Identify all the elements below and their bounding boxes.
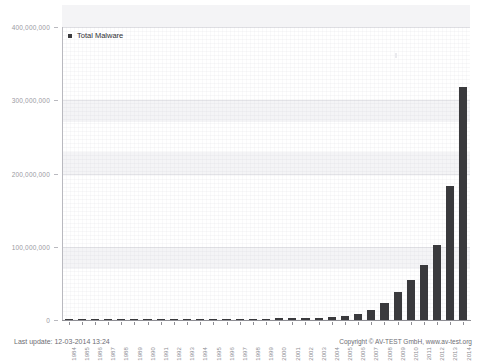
bar-2003 <box>315 318 323 320</box>
bar-1992 <box>170 319 178 320</box>
x-tick-2000 <box>279 322 280 325</box>
y-tick-label-0: 0 <box>46 317 50 324</box>
bar-1989 <box>130 319 138 320</box>
x-tick-2001 <box>292 322 293 325</box>
x-tick-2012 <box>437 322 438 325</box>
bar-1994 <box>196 319 204 320</box>
last-update-text: Last update: 12-03-2014 13:24 <box>14 338 110 345</box>
bar-1986 <box>91 319 99 320</box>
x-tick-2008 <box>384 322 385 325</box>
x-tick-2002 <box>305 322 306 325</box>
bar-2005 <box>341 316 349 320</box>
y-tick-label-400000000: 400,000,000 <box>12 24 50 31</box>
bar-1997 <box>236 319 244 320</box>
malware-bar-chart: 0100,000,000200,000,000300,000,000400,00… <box>0 13 484 335</box>
x-tick-2005 <box>345 322 346 325</box>
bar-2009 <box>394 292 402 320</box>
x-tick-1996 <box>227 322 228 325</box>
bar-2013 <box>446 186 454 320</box>
bar-1996 <box>222 319 230 320</box>
x-tick-2003 <box>319 322 320 325</box>
bar-2011 <box>420 265 428 320</box>
x-tick-1998 <box>253 322 254 325</box>
x-tick-1986 <box>95 322 96 325</box>
x-tick-2009 <box>398 322 399 325</box>
x-tick-2006 <box>358 322 359 325</box>
y-tick-label-300000000: 300,000,000 <box>12 97 50 104</box>
x-tick-2011 <box>424 322 425 325</box>
bar-1998 <box>249 319 257 320</box>
bar-2004 <box>328 317 336 320</box>
bar-2012 <box>433 245 441 320</box>
y-tick-mark-200000000 <box>54 174 58 175</box>
top-strip-ghost-text <box>4 0 6 8</box>
bar-1993 <box>183 319 191 320</box>
x-tick-1992 <box>174 322 175 325</box>
bar-2007 <box>367 310 375 320</box>
x-tick-1995 <box>213 322 214 325</box>
x-tick-2010 <box>411 322 412 325</box>
band-upper-400000000 <box>62 5 470 27</box>
bar-2002 <box>301 318 309 320</box>
x-tick-1993 <box>187 322 188 325</box>
bar-2000 <box>275 318 283 320</box>
x-tick-1997 <box>240 322 241 325</box>
x-tick-2007 <box>371 322 372 325</box>
bar-1990 <box>143 319 151 320</box>
y-axis-labels: 0100,000,000200,000,000300,000,000400,00… <box>0 27 58 321</box>
y-tick-mark-400000000 <box>54 27 58 28</box>
x-tick-2013 <box>450 322 451 325</box>
x-tick-1990 <box>148 322 149 325</box>
x-tick-1999 <box>266 322 267 325</box>
y-tick-label-200000000: 200,000,000 <box>12 170 50 177</box>
bar-2006 <box>354 314 362 320</box>
bar-2010 <box>407 280 415 320</box>
y-tick-mark-300000000 <box>54 100 58 101</box>
legend-label-total-malware: Total Malware <box>77 31 123 40</box>
x-tick-1994 <box>200 322 201 325</box>
bar-1988 <box>117 319 125 320</box>
bar-2001 <box>288 318 296 320</box>
x-tick-1988 <box>121 322 122 325</box>
x-tick-1985 <box>82 322 83 325</box>
copyright-text: Copyright © AV-TEST GmbH, www.av-test.or… <box>339 338 472 345</box>
x-tick-2014 <box>463 322 464 325</box>
bar-1999 <box>262 319 270 320</box>
y-tick-mark-100000000 <box>54 247 58 248</box>
bar-1987 <box>104 319 112 320</box>
bar-2014 <box>459 87 467 320</box>
x-axis-line <box>62 320 471 321</box>
y-tick-mark-0 <box>54 320 58 321</box>
chart-legend: Total Malware <box>68 31 123 40</box>
x-tick-1987 <box>108 322 109 325</box>
y-tick-label-100000000: 100,000,000 <box>12 243 50 250</box>
bar-1991 <box>157 319 165 320</box>
chart-footer: Last update: 12-03-2014 13:24 Copyright … <box>0 336 484 352</box>
bar-1995 <box>209 319 217 320</box>
bar-series-total-malware <box>62 27 470 320</box>
bar-1985 <box>78 319 86 320</box>
x-tick-1984 <box>69 322 70 325</box>
x-tick-1989 <box>134 322 135 325</box>
square-marker-icon <box>68 34 72 38</box>
x-tick-1991 <box>161 322 162 325</box>
bar-1984 <box>65 319 73 320</box>
bar-2008 <box>380 303 388 320</box>
x-tick-2004 <box>332 322 333 325</box>
